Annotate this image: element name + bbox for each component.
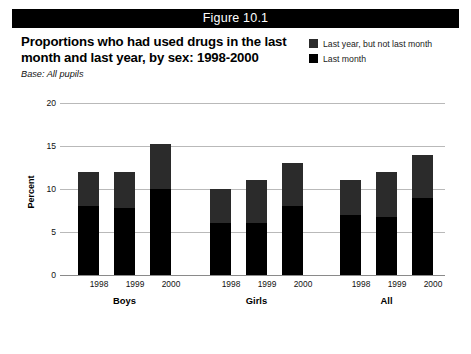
x-tick-label-boys-1999: 1999	[115, 279, 155, 289]
bar-segment-last-year-not-month	[78, 172, 99, 206]
x-tick-label-boys-1998: 1998	[79, 279, 119, 289]
x-tick-label-girls-1999: 1999	[247, 279, 287, 289]
y-axis-label: Percent	[26, 157, 36, 227]
bar-segment-last-month	[150, 189, 171, 275]
bar-segment-last-month	[78, 206, 99, 275]
y-tick-label-15: 15	[34, 141, 56, 151]
x-tick-label-boys-2000: 2000	[151, 279, 191, 289]
bar-all-1998	[340, 180, 361, 275]
bar-segment-last-year-not-month	[282, 163, 303, 206]
group-label-girls: Girls	[217, 295, 297, 306]
gridline-0	[60, 275, 445, 276]
bars-layer	[60, 103, 445, 275]
group-label-boys: Boys	[85, 295, 165, 306]
bar-boys-1998	[78, 172, 99, 275]
bar-girls-2000	[282, 163, 303, 275]
bar-all-2000	[412, 155, 433, 275]
y-tick-label-0: 0	[34, 270, 56, 280]
x-tick-label-all-1999: 1999	[377, 279, 417, 289]
bar-segment-last-month	[210, 223, 231, 275]
bar-girls-1999	[246, 180, 267, 275]
bar-segment-last-month	[340, 215, 361, 275]
x-tick-label-all-2000: 2000	[413, 279, 453, 289]
y-tick-label-20: 20	[34, 98, 56, 108]
bar-segment-last-month	[376, 217, 397, 275]
figure-card: Figure 10.1 Proportions who had used dru…	[12, 9, 459, 345]
bar-segment-last-year-not-month	[412, 155, 433, 198]
x-tick-label-all-1998: 1998	[341, 279, 381, 289]
bar-boys-1999	[114, 172, 135, 275]
bar-segment-last-month	[282, 206, 303, 275]
bar-segment-last-year-not-month	[340, 180, 361, 214]
bar-boys-2000	[150, 144, 171, 275]
bar-segment-last-month	[246, 223, 267, 275]
y-tick-label-10: 10	[34, 184, 56, 194]
bar-segment-last-month	[114, 208, 135, 275]
bar-segment-last-year-not-month	[246, 180, 267, 223]
plot-area: 05101520 Percent 19981999200019981999200…	[12, 9, 459, 345]
bar-all-1999	[376, 172, 397, 275]
bar-segment-last-month	[412, 198, 433, 275]
bar-girls-1998	[210, 189, 231, 275]
bar-segment-last-year-not-month	[210, 189, 231, 223]
y-tick-label-5: 5	[34, 227, 56, 237]
group-label-all: All	[347, 295, 427, 306]
bar-segment-last-year-not-month	[114, 172, 135, 208]
x-tick-label-girls-2000: 2000	[283, 279, 323, 289]
x-tick-label-girls-1998: 1998	[211, 279, 251, 289]
bar-segment-last-year-not-month	[376, 172, 397, 217]
bar-segment-last-year-not-month	[150, 144, 171, 189]
